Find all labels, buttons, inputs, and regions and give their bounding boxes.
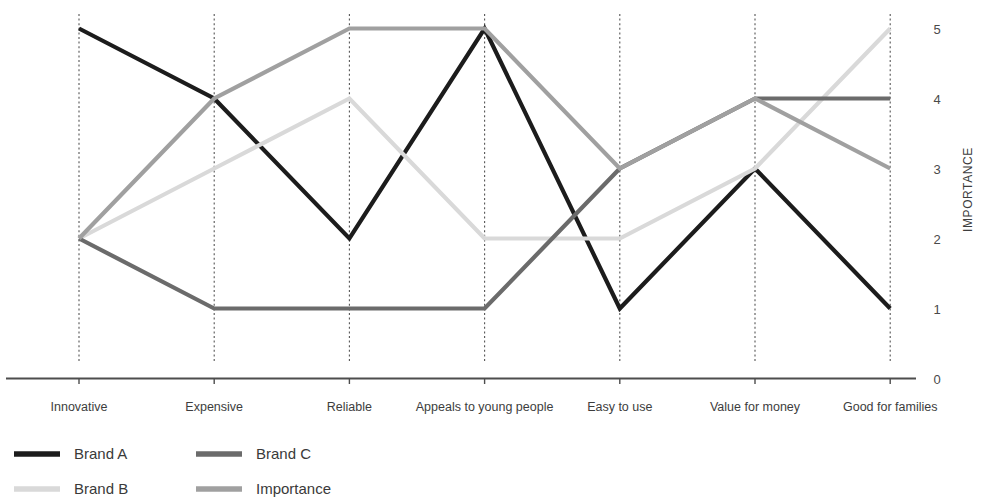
vertical-axis-group: [79, 14, 890, 363]
category-label-group: InnovativeExpensiveReliableAppeals to yo…: [51, 400, 938, 414]
y-tick-label-3: 3: [933, 162, 940, 177]
y-axis-title: IMPORTANCE: [961, 147, 975, 232]
category-label-0: Innovative: [51, 400, 108, 414]
y-tick-label-2: 2: [933, 232, 940, 247]
y-tick-label-0: 0: [933, 372, 940, 387]
category-label-5: Value for money: [710, 400, 801, 414]
y-tick-label-4: 4: [933, 92, 940, 107]
category-label-2: Reliable: [327, 400, 372, 414]
legend-label-3: Importance: [256, 480, 331, 497]
chart-legend: Brand ABrand BBrand CImportance: [14, 445, 331, 497]
legend-label-0: Brand A: [74, 445, 127, 462]
chart-canvas: InnovativeExpensiveReliableAppeals to yo…: [0, 0, 994, 501]
category-label-1: Expensive: [185, 400, 243, 414]
y-tick-label-1: 1: [933, 302, 940, 317]
category-label-4: Easy to use: [587, 400, 652, 414]
y-tick-label-5: 5: [933, 22, 940, 37]
category-label-3: Appeals to young people: [416, 400, 554, 414]
legend-label-1: Brand B: [74, 480, 128, 497]
category-label-6: Good for families: [843, 400, 937, 414]
legend-label-2: Brand C: [256, 445, 311, 462]
y-tick-label-group: 012345: [933, 22, 940, 387]
parallel-coordinates-chart: InnovativeExpensiveReliableAppeals to yo…: [0, 0, 994, 501]
